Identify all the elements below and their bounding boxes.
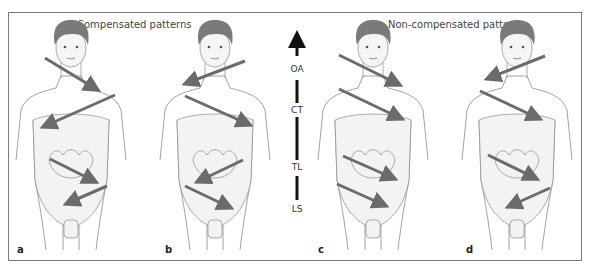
panel-label-d: d — [466, 244, 473, 255]
spine-level-oa: OA — [290, 64, 303, 74]
spine-level-ct: CT — [291, 105, 303, 115]
panel-label-c: c — [318, 244, 324, 255]
panel-b-body — [160, 20, 270, 250]
panel-label-a: a — [17, 244, 24, 255]
figure-illustration — [0, 0, 591, 276]
panel-a-body — [16, 20, 126, 250]
panel-c-body — [318, 20, 428, 250]
panel-d-body — [462, 20, 572, 250]
spine-level-tl: TL — [292, 162, 303, 172]
spine-level-ls: LS — [292, 204, 303, 214]
panel-label-b: b — [165, 244, 172, 255]
